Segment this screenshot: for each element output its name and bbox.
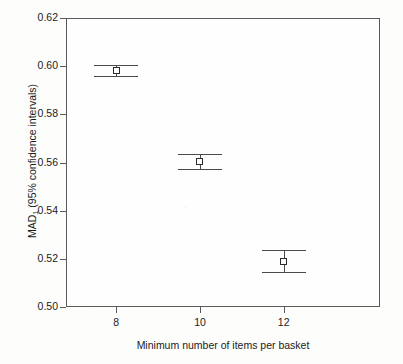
y-axis-tick-label-wrap: 0.50	[0, 301, 58, 311]
x-axis-tick-label: 10	[180, 316, 220, 328]
y-axis-tick-label-wrap: 0.62	[0, 12, 58, 22]
y-axis-title-rest: (95% confidence intervals)	[26, 84, 38, 211]
y-axis-tick-label-wrap: 0.60	[0, 60, 58, 70]
chart-screenshot: MAD1 (95% confidence intervals) 0.620.60…	[0, 0, 403, 364]
y-axis-tick-label-wrap: 0.56	[0, 157, 58, 167]
x-axis-tick	[200, 307, 201, 313]
y-axis-tick-label: 0.50	[6, 301, 58, 311]
errorbar-lower-cap	[262, 272, 306, 273]
data-point-marker	[280, 258, 287, 265]
y-axis-tick-label-wrap: 0.52	[0, 253, 58, 263]
x-axis-tick	[116, 307, 117, 313]
y-axis-tick-label: 0.56	[6, 157, 58, 167]
y-axis-title-main: MAD	[26, 215, 38, 238]
errorbar-lower-cap	[94, 76, 138, 77]
data-point-marker	[113, 67, 120, 74]
y-axis-tick-label: 0.54	[6, 205, 58, 215]
y-axis-tick-label-wrap: 0.58	[0, 108, 58, 118]
data-point-marker	[196, 158, 203, 165]
x-axis-tick	[284, 307, 285, 313]
y-axis-tick-label: 0.58	[6, 108, 58, 118]
errorbar-lower-cap	[178, 169, 222, 170]
y-axis-tick-label-wrap: 0.54	[0, 205, 58, 215]
plot-area	[66, 18, 380, 307]
y-axis-tick-label: 0.52	[6, 253, 58, 263]
x-axis-tick-label: 8	[96, 316, 136, 328]
x-axis-tick-label: 12	[264, 316, 304, 328]
y-axis-tick-label: 0.62	[6, 12, 58, 22]
y-axis-tick-label: 0.60	[6, 60, 58, 70]
x-axis-title: Minimum number of items per basket	[66, 339, 380, 351]
y-axis-tick	[60, 307, 66, 308]
